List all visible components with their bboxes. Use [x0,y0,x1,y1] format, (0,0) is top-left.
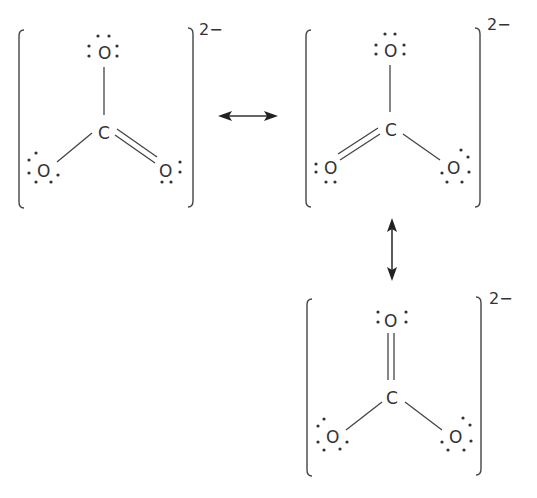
resonance-arrow-vertical [387,218,397,281]
left-bracket [306,30,311,207]
oxygen-left: O [37,161,50,181]
oxygen-top: O [98,43,111,63]
oxygen-right: O [159,161,172,181]
charge-label: 2− [199,20,223,39]
oxygen-top: O [384,41,397,61]
carbon-center: C [386,388,398,408]
right-bracket [188,28,193,207]
left-bracket [307,299,312,476]
carbonate-resonance-diagram: 2− O C O O 2− O [0,0,537,498]
structure-2: 2− O C O O [306,15,511,207]
resonance-arrow-horizontal [218,111,278,121]
oxygen-left: O [324,158,337,178]
charge-label: 2− [489,289,513,308]
structure-3: 2− O C O O [307,289,513,476]
right-bracket [475,28,480,207]
oxygen-right: O [447,158,460,178]
charge-label: 2− [487,15,511,34]
oxygen-right: O [449,427,462,447]
carbon-center: C [385,120,397,140]
oxygen-left: O [326,427,339,447]
oxygen-top: O [384,311,397,331]
carbon-center: C [98,123,110,143]
left-bracket [19,30,24,208]
right-bracket [476,297,481,475]
structure-1: 2− O C O O [19,20,223,208]
